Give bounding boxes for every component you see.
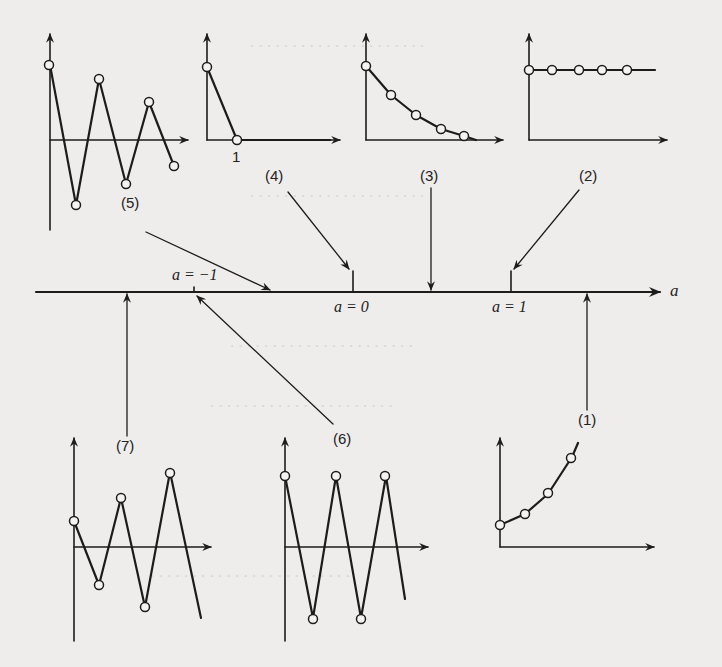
panel-1-plot — [496, 438, 655, 547]
panel-4-plot — [203, 34, 341, 145]
marker-label-a-one: a = 1 — [492, 298, 527, 316]
difference-equation-diagram — [0, 0, 722, 667]
figure-page: . . . . . . . . . . . . . . . . . . . . … — [0, 0, 722, 667]
panel-3-plot — [362, 34, 504, 141]
marker-text: a = 0 — [334, 298, 369, 315]
panel-label-3: (3) — [420, 167, 438, 184]
panel-label-5: (5) — [121, 194, 139, 211]
panel-5-plot — [45, 34, 189, 230]
panel-4-tick-label: 1 — [232, 148, 240, 165]
panel-7-plot — [70, 438, 212, 641]
axis-label-a: a — [670, 281, 679, 301]
panel-label-4: (4) — [265, 167, 283, 184]
marker-label-a-minus-1: a = −1 — [172, 266, 218, 284]
panel-label-1: (1) — [578, 411, 596, 428]
marker-label-a-zero: a = 0 — [334, 298, 369, 316]
panel-label-6: (6) — [333, 430, 351, 447]
marker-text: a = −1 — [172, 266, 218, 283]
panel-label-2: (2) — [579, 167, 597, 184]
panel-6-plot — [281, 438, 429, 641]
arrow-4 — [288, 192, 349, 269]
arrow-6 — [197, 296, 333, 424]
marker-text: a = 1 — [492, 298, 527, 315]
panel-2-plot — [525, 34, 668, 140]
a-axis — [36, 271, 660, 292]
panel-label-7: (7) — [116, 437, 134, 454]
arrow-2 — [514, 190, 579, 269]
